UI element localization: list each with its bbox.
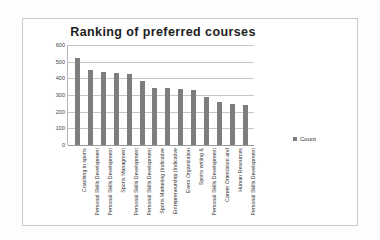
x-axis-category-label: Personal Skills Development — [250, 148, 256, 215]
chart-container: Ranking of preferred courses 60050040030… — [22, 18, 358, 226]
x-label-slot: Personal Skills Development — [240, 147, 253, 225]
bar[interactable] — [75, 58, 80, 146]
bar[interactable] — [127, 74, 132, 145]
x-label-slot: Personal Skills Development — [201, 147, 214, 225]
bar-slot — [239, 45, 252, 145]
x-axis-labels: Coaching in sportsPersonal Skills Develo… — [68, 147, 255, 225]
bar[interactable] — [217, 102, 222, 145]
bar-slot — [226, 45, 239, 145]
bar[interactable] — [140, 81, 145, 145]
x-label-slot: Coaching in sports — [71, 147, 84, 225]
x-label-slot: Entrepreneurship (Indicative — [162, 147, 175, 225]
x-label-slot: Personal Skills Development — [84, 147, 97, 225]
bar[interactable] — [191, 90, 196, 145]
y-axis-tick-label: 300 — [56, 92, 65, 98]
chart-legend: Count — [293, 136, 316, 142]
x-label-slot: Personal Skills Development — [97, 147, 110, 225]
bar[interactable] — [204, 97, 209, 145]
bar-slot — [71, 45, 84, 145]
bar-group — [68, 45, 254, 145]
bar-slot — [110, 45, 123, 145]
y-axis-tick-label: 400 — [56, 75, 65, 81]
bar-slot — [123, 45, 136, 145]
bar-slot — [84, 45, 97, 145]
bar[interactable] — [230, 104, 235, 145]
bar[interactable] — [88, 70, 93, 145]
x-label-slot: Personal Skills Development — [136, 147, 149, 225]
legend-label: Count — [300, 136, 316, 142]
bar-slot — [187, 45, 200, 145]
bar-slot — [97, 45, 110, 145]
bar[interactable] — [243, 105, 248, 145]
legend-swatch-icon — [293, 137, 297, 141]
bar-slot — [149, 45, 162, 145]
y-axis-tick-label: 200 — [56, 109, 65, 115]
bar[interactable] — [114, 73, 119, 146]
y-axis-tick-label: 100 — [56, 125, 65, 131]
bar-slot — [213, 45, 226, 145]
x-label-slot: Human Resources — [227, 147, 240, 225]
page-background: Ranking of preferred courses 60050040030… — [0, 0, 380, 240]
gridline — [68, 145, 254, 146]
bar[interactable] — [101, 72, 106, 145]
y-axis-tick-label: 600 — [56, 42, 65, 48]
y-axis-tick-label: 0 — [62, 142, 65, 148]
chart-title: Ranking of preferred courses — [23, 25, 303, 39]
bar-slot — [136, 45, 149, 145]
x-label-slot: Personal Skills Development — [123, 147, 136, 225]
bar-slot — [174, 45, 187, 145]
x-label-slot: Career Orientation and — [214, 147, 227, 225]
x-label-slot: Event Organization — [175, 147, 188, 225]
bar-slot — [200, 45, 213, 145]
bar[interactable] — [152, 88, 157, 146]
bar[interactable] — [165, 88, 170, 145]
x-label-slot: Sports Managment — [110, 147, 123, 225]
y-axis-tick-label: 500 — [56, 59, 65, 65]
plot-area-wrapper: 6005004003002001000 — [67, 45, 254, 145]
bar[interactable] — [178, 89, 183, 145]
x-label-slot: Sports writing & — [188, 147, 201, 225]
x-label-slot: Sports Marketing (Indicative — [149, 147, 162, 225]
bar-slot — [161, 45, 174, 145]
